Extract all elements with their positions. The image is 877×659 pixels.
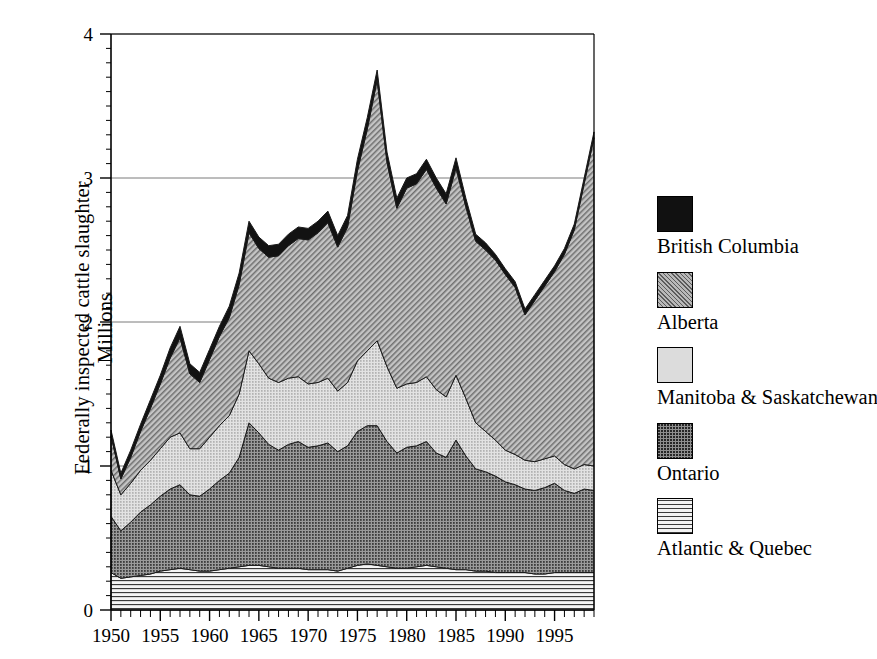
x-axis-ticks	[111, 610, 594, 621]
legend-swatch-alberta	[657, 272, 693, 308]
x-tick-label: 1990	[486, 625, 524, 646]
x-tick-label: 1950	[92, 625, 130, 646]
chart-page: 01234 1950195519601965197019751980198519…	[0, 0, 877, 659]
legend-label: British Columbia	[657, 235, 877, 258]
x-tick-label: 1980	[388, 625, 426, 646]
legend-label: Ontario	[657, 462, 877, 485]
x-axis-tick-labels: 1950195519601965197019751980198519901995	[92, 625, 574, 646]
legend-label: Manitoba & Saskatchewan	[657, 386, 877, 409]
legend-swatch-ontario	[657, 423, 693, 459]
area-series-group	[111, 70, 594, 610]
x-tick-label: 1970	[289, 625, 327, 646]
legend-item: Alberta	[657, 272, 877, 334]
legend-label: Alberta	[657, 311, 877, 334]
legend-item: Manitoba & Saskatchewan	[657, 347, 877, 409]
y-tick-label: 4	[84, 24, 94, 45]
legend-swatch-atlantic-quebec	[657, 498, 693, 534]
x-tick-label: 1995	[536, 625, 574, 646]
x-tick-label: 1955	[141, 625, 179, 646]
legend-item: Atlantic & Quebec	[657, 498, 877, 560]
legend-swatch-manitoba-saskatchewan	[657, 347, 693, 383]
legend-label: Atlantic & Quebec	[657, 537, 877, 560]
legend-item: Ontario	[657, 423, 877, 485]
x-tick-label: 1985	[437, 625, 475, 646]
x-tick-label: 1965	[240, 625, 278, 646]
legend-item: British Columbia	[657, 196, 877, 258]
x-tick-label: 1975	[338, 625, 376, 646]
x-tick-label: 1960	[191, 625, 229, 646]
y-tick-label: 0	[84, 600, 94, 621]
y-axis-title-line2: Millions	[94, 293, 117, 363]
y-axis-title-line1: Federally inspected cattle slaughter	[71, 181, 94, 474]
chart-legend: British ColumbiaAlbertaManitoba & Saskat…	[657, 196, 877, 574]
legend-swatch-british-columbia	[657, 196, 693, 232]
y-axis-title: Federally inspected cattle slaughter Mil…	[66, 118, 122, 538]
